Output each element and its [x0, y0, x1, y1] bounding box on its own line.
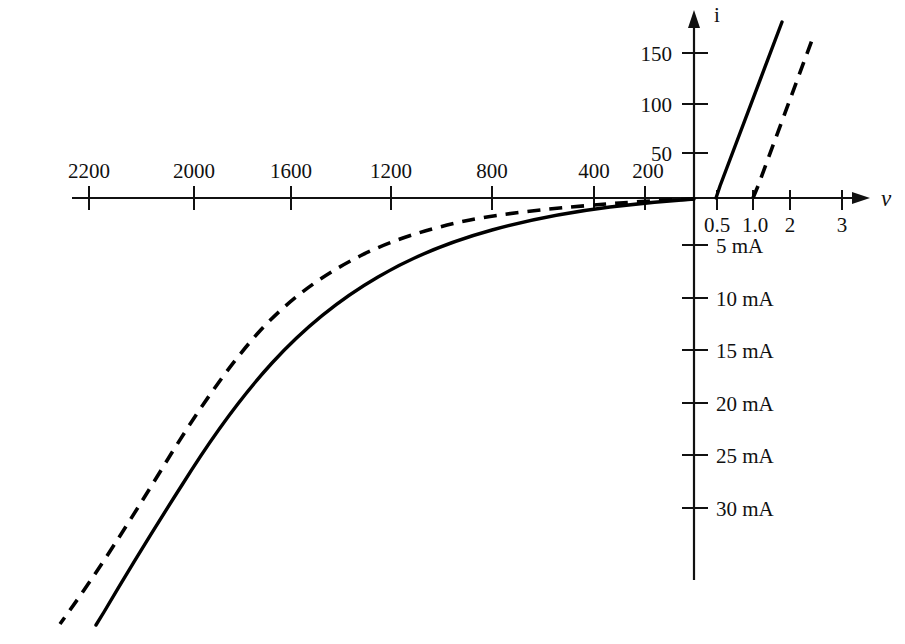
iv-curve-plot: 2200 2000 1600 1200 800 400 200 0.5 1.0 …: [0, 0, 905, 644]
tick-label-v-2200: 2200: [68, 159, 110, 183]
diode-iv-characteristic-figure: 2200 2000 1600 1200 800 400 200 0.5 1.0 …: [0, 0, 905, 644]
dashed-curve-forward-branch: [753, 40, 812, 198]
v-axis-forward-ticks: [717, 190, 842, 210]
tick-label-v-2000: 2000: [173, 159, 215, 183]
tick-label-i-150: 150: [641, 42, 673, 66]
tick-label-i-neg30: 30 mA: [716, 497, 775, 521]
tick-label-i-neg20: 20 mA: [716, 392, 775, 416]
tick-label-i-neg5: 5 mA: [716, 234, 764, 258]
dashed-curve-reverse-branch: [60, 199, 694, 624]
solid-curve-forward-branch: [716, 22, 782, 198]
i-reverse-tick-labels: 5 mA 10 mA 15 mA 20 mA 25 mA 30 mA: [716, 234, 775, 521]
i-axis-arrow-icon: [688, 10, 700, 28]
i-forward-tick-labels: 50 100 150: [641, 42, 673, 166]
tick-label-v-1600: 1600: [270, 159, 312, 183]
v-reverse-tick-labels: 2200 2000 1600 1200 800 400 200: [68, 159, 664, 183]
tick-label-i-100: 100: [641, 93, 673, 117]
tick-label-v-1200: 1200: [370, 159, 412, 183]
solid-curve-reverse-branch: [96, 199, 694, 625]
tick-label-i-neg10: 10 mA: [716, 287, 775, 311]
tick-label-v-800: 800: [476, 159, 508, 183]
v-axis-arrow-icon: [852, 192, 870, 204]
tick-label-i-neg15: 15 mA: [716, 339, 775, 363]
solid-device-curve-group: [96, 22, 782, 625]
tick-label-i-50: 50: [651, 142, 672, 166]
tick-label-i-neg25: 25 mA: [716, 444, 775, 468]
i-axis-group: [688, 10, 700, 580]
tick-label-v-3: 3: [837, 213, 848, 237]
v-axis-label: v: [881, 186, 892, 211]
tick-label-v-400: 400: [578, 159, 610, 183]
i-axis-label: i: [714, 3, 720, 27]
dashed-device-curve-group: [60, 40, 812, 624]
tick-label-v-2: 2: [785, 213, 796, 237]
v-axis-group: [72, 192, 870, 204]
